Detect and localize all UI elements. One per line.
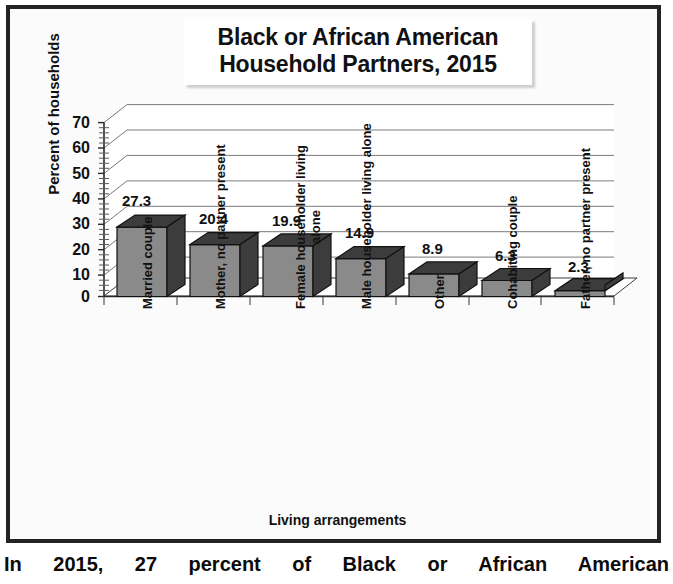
chart-title: Black or African American Household Part… [184, 19, 532, 85]
y-tick-label-70: 70 [56, 115, 90, 131]
y-tick-label-20: 20 [56, 242, 90, 258]
x-axis-title: Living arrangements [10, 512, 661, 528]
chart-title-line-2: Household Partners, 2015 [188, 51, 528, 78]
category-label-married-couple: Married couple [140, 217, 155, 309]
y-tick-label-40: 40 [56, 191, 90, 207]
caption-line-1: In 2015, 27 percent of Black or African … [4, 551, 669, 577]
y-tick-label-60: 60 [56, 140, 90, 156]
y-tick-label-10: 10 [56, 267, 90, 283]
category-label-other-line-1: Other [432, 274, 447, 309]
category-label-female-householder-living-alone-line-1: Female householder living [293, 145, 308, 309]
category-label-cohabiting-couple: Cohabiting couple [505, 196, 520, 309]
plot-svg [10, 9, 661, 543]
y-tick-label-50: 50 [56, 166, 90, 182]
value-label-other: 8.9 [422, 240, 443, 257]
category-label-other: Other [432, 274, 447, 309]
category-label-male-householder-living-alone-line-1: Male householder living alone [359, 123, 374, 309]
category-label-mother-no-partner-present-line-1: Mother, no partner present [213, 144, 228, 309]
caption-text: In 2015, 27 percent of Black or African … [4, 551, 669, 577]
category-label-father-no-partner-present-line-1: Father, no partner present [578, 148, 593, 309]
category-label-cohabiting-couple-line-1: Cohabiting couple [505, 196, 520, 309]
category-label-mother-no-partner-present: Mother, no partner present [213, 144, 228, 309]
category-label-married-couple-line-1: Married couple [140, 217, 155, 309]
y-tick-label-0: 0 [56, 289, 90, 305]
chart-page: Black or African American Household Part… [0, 0, 673, 584]
value-label-married-couple: 27.3 [122, 192, 151, 209]
y-tick-label-30: 30 [56, 216, 90, 232]
y-axis-title: Percent of households [45, 9, 65, 219]
chart-frame: Black or African American Household Part… [6, 5, 661, 543]
chart-title-line-1: Black or African American [188, 24, 528, 51]
category-label-male-householder-living-alone: Male householder living alone [359, 123, 374, 309]
category-label-female-householder-living-alone: Female householder living alone [293, 145, 323, 309]
category-label-female-householder-living-alone-line-2: alone [308, 145, 323, 309]
plot-area [10, 9, 661, 543]
category-label-father-no-partner-present: Father, no partner present [578, 148, 593, 309]
